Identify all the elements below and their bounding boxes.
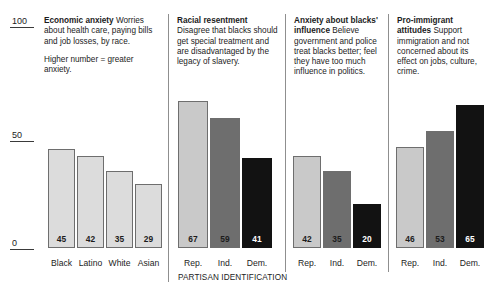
panel-separator [388,14,389,272]
bar: 29 [135,184,162,248]
bar-value-label: 42 [78,234,103,244]
y-tick-mark-100 [10,27,34,28]
chart-panel-1: Economic anxiety Worries about health ca… [40,0,168,298]
bar: 20 [353,204,381,248]
bar: 45 [48,149,75,248]
category-label: Latino [77,258,104,268]
bar-value-label: 46 [397,234,423,244]
bar-value-label: 59 [211,234,239,244]
bar: 42 [293,156,321,248]
y-tick-100: 100 [10,16,36,28]
bar-value-label: 41 [243,234,271,244]
x-axis-label: PARTISAN IDENTIFICATION [178,273,287,282]
bar-value-label: 53 [427,234,453,244]
chart-panel-3: Anxiety about blacks' influence Believe … [285,0,388,298]
bar: 42 [77,156,104,248]
bar-value-label: 20 [354,234,380,244]
category-label: Black [48,258,75,268]
panel-title: Economic anxiety [44,16,114,25]
panel-separator [168,14,169,282]
panel-heading-block: Anxiety about blacks' influence Believe … [294,16,381,78]
bar-value-label: 35 [324,234,350,244]
panel-separator [285,14,286,272]
category-label: Ind. [210,258,240,268]
y-tick-50: 50 [10,130,36,142]
panel-heading-block: Pro-immigrant attitudes Support immigrat… [397,16,480,78]
panel-title: Racial resentment [177,16,248,25]
panel-heading-block: Economic anxiety Worries about health ca… [44,16,162,75]
panel-heading-block: Racial resentment Disagree that blacks s… [177,16,278,67]
category-label: Dem. [242,258,272,268]
y-tick-mark-50 [10,141,34,142]
category-label: Ind. [323,258,351,268]
bar: 35 [106,171,133,248]
bar: 65 [456,105,484,248]
bar: 53 [426,131,454,248]
bar: 41 [242,158,272,248]
category-label: Dem. [456,258,484,268]
y-tick-0: 0 [10,238,36,250]
bar: 35 [323,171,351,248]
bar-value-label: 65 [457,234,483,244]
category-label: Asian [135,258,162,268]
category-label: Rep. [396,258,424,268]
spacer [44,47,162,55]
category-label: White [106,258,133,268]
category-label: Ind. [426,258,454,268]
bar: 46 [396,147,424,248]
panel-note: Higher number = greater anxiety. [44,55,133,74]
chart-panel-4: Pro-immigrant attitudes Support immigrat… [388,0,487,298]
y-tick-label-100: 100 [10,16,36,26]
panel-description: Disagree that blacks should get special … [177,26,278,66]
bar: 67 [178,101,208,248]
category-label: Rep. [178,258,208,268]
bar-value-label: 45 [49,234,74,244]
bar-value-label: 29 [136,234,161,244]
bar-value-label: 42 [294,234,320,244]
bar-value-label: 67 [179,234,207,244]
chart-panel-2: Racial resentment Disagree that blacks s… [168,0,285,298]
category-label: Rep. [293,258,321,268]
y-axis: 100 50 0 [0,0,40,298]
y-tick-label-0: 0 [10,238,36,248]
bar-value-label: 35 [107,234,132,244]
category-label: Dem. [353,258,381,268]
bar: 59 [210,118,240,248]
y-tick-label-50: 50 [10,130,36,140]
y-tick-mark-0 [10,249,34,250]
chart-figure: 100 50 0 Economic anxiety Worries about … [0,0,487,298]
